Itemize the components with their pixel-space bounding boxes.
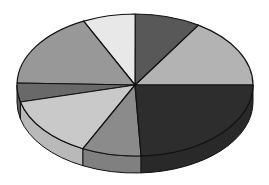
pie-slice-8: [135, 85, 253, 156]
pie-chart: [0, 0, 269, 185]
pie-top-face: [17, 14, 253, 156]
